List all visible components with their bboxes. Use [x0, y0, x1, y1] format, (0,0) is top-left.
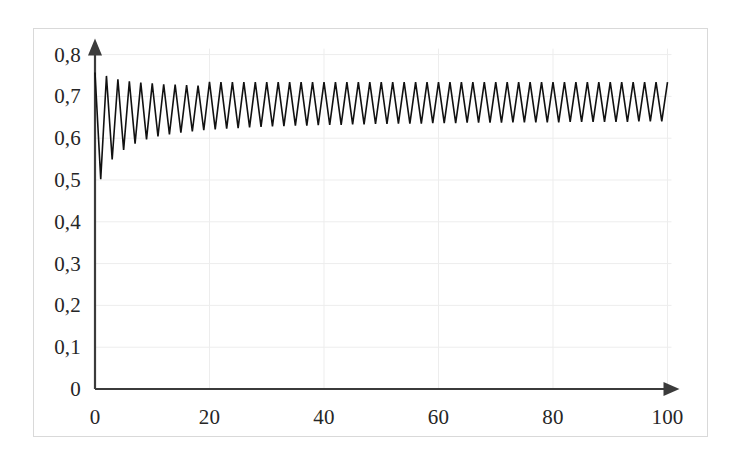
chart-figure: 00,10,20,30,40,50,60,70,8 020406080100	[33, 28, 708, 437]
x-tick-label: 80	[542, 407, 563, 428]
y-tick-label: 0,8	[54, 44, 81, 65]
y-tick-label: 0,7	[54, 86, 81, 107]
y-tick-label: 0,5	[54, 170, 81, 191]
y-tick-label: 0,2	[54, 295, 81, 316]
x-tick-label: 0	[90, 407, 101, 428]
x-tick-label: 40	[313, 407, 334, 428]
x-tick-label: 60	[428, 407, 449, 428]
data-series-line	[95, 73, 668, 180]
x-tick-label: 100	[651, 407, 683, 428]
x-tick-label: 20	[199, 407, 220, 428]
y-tick-label: 0,1	[54, 337, 81, 358]
y-tick-label: 0,3	[54, 253, 81, 274]
plot-area: 00,10,20,30,40,50,60,70,8 020406080100	[34, 29, 707, 436]
vertical-gridlines	[210, 49, 668, 389]
y-tick-label: 0,6	[54, 128, 81, 149]
y-tick-label: 0,4	[54, 211, 81, 232]
y-tick-label: 0	[70, 379, 81, 400]
chart-canvas	[34, 29, 709, 438]
